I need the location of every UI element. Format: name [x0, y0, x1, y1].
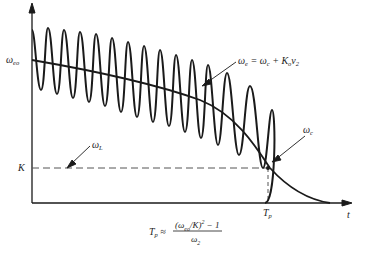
formula-denominator: ω2: [191, 234, 200, 246]
omega-c-leader-line: [275, 136, 305, 160]
formula-lhs: Tp ≈: [149, 227, 166, 239]
x-axis-arrow-icon: [342, 200, 352, 206]
y-axis-arrow-icon: [29, 3, 35, 13]
omega-e-annotation: ωe = ωc + Kov2: [238, 56, 299, 68]
K-label: K: [18, 163, 25, 173]
t-axis-label: t: [347, 210, 350, 220]
omega-eo-label: ωeo: [6, 55, 19, 67]
formula-numerator: (ωeo/K)2 − 1: [175, 219, 219, 232]
omega-L-annotation: ωL: [92, 140, 103, 152]
Tp-intersection-dot: [266, 166, 270, 170]
omega-c-annotation: ωc: [303, 125, 313, 137]
Tp-tick-label: Tp: [263, 208, 272, 220]
axes: [29, 3, 352, 206]
